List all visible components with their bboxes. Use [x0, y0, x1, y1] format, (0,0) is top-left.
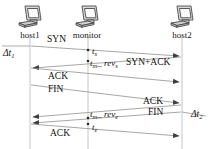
message-label-fin-2: FIN	[148, 107, 163, 117]
timestamp-tm-rev-e: tm_ reve	[90, 109, 118, 120]
interval-label-delta-t1: Δt1	[3, 48, 14, 59]
message-label-ack-1: ACK	[48, 71, 68, 81]
tick-dot-te	[87, 123, 90, 126]
timestamp-t-s: ts	[92, 46, 97, 57]
message-label-syn: SYN	[47, 34, 66, 44]
computer-icon	[72, 4, 102, 30]
computer-icon	[15, 4, 45, 30]
tick-dot-m-rev-e	[87, 117, 90, 120]
arrow-syn	[31, 46, 179, 56]
node-monitor: monitor	[60, 4, 114, 40]
timestamp-tm-rev-s: tm_ revs	[90, 58, 118, 69]
timestamp-t-e: te	[92, 122, 97, 133]
interval-label-delta-t2: Δt2	[191, 109, 202, 120]
message-label-fin-1: FIN	[48, 84, 63, 94]
tick-dot-ts	[87, 49, 90, 52]
tick-dot-m-rev-s	[87, 60, 90, 63]
node-label-monitor: monitor	[60, 30, 114, 40]
node-label-host2: host2	[155, 30, 209, 40]
computer-icon	[167, 4, 197, 30]
message-label-ack-2: ACK	[143, 96, 163, 106]
message-label-ack-3: ACK	[50, 128, 70, 138]
message-label-syn-ack: SYN+ACK	[126, 57, 170, 67]
node-host2: host2	[155, 4, 209, 40]
sequence-diagram: host1 monitor host2	[0, 0, 215, 149]
